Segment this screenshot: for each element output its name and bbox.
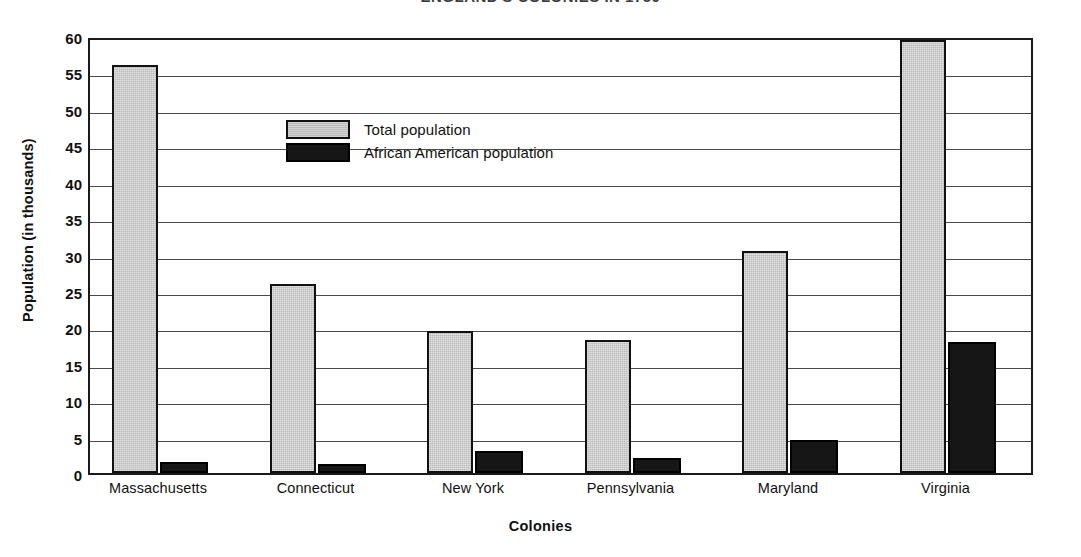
y-axis-tick-5: 5 <box>36 431 82 446</box>
y-axis-tick-15: 15 <box>36 358 82 373</box>
x-axis-tick-virginia: Virginia <box>921 480 970 496</box>
chart-page: ENGLAND'S COLONIES IN 1750 Population (i… <box>0 0 1081 557</box>
bar-group-maryland <box>742 40 838 473</box>
chart-title: ENGLAND'S COLONIES IN 1750 <box>0 0 1081 2</box>
y-axis-tick-30: 30 <box>36 249 82 264</box>
x-axis-tick-labels: MassachusettsConnecticutNew YorkPennsylv… <box>88 480 1033 504</box>
y-axis-tick-50: 50 <box>36 103 82 118</box>
chart-legend: Total population African American popula… <box>286 118 616 164</box>
y-axis-tick-35: 35 <box>36 213 82 228</box>
y-axis-tick-labels: 605550454035302520151050 <box>36 38 82 475</box>
bar-group-virginia <box>900 40 996 473</box>
bar-african-american-population-connecticut <box>318 464 366 473</box>
bar-group-new-york <box>427 40 523 473</box>
legend-swatch-total-population-icon <box>286 120 350 139</box>
bar-african-american-population-massachusetts <box>160 462 208 473</box>
y-axis-tick-40: 40 <box>36 176 82 191</box>
legend-item-african-american-population: African American population <box>286 141 616 164</box>
bar-total-population-virginia <box>900 40 946 473</box>
legend-label-total-population: Total population <box>364 121 471 138</box>
bar-total-population-pennsylvania <box>585 340 631 473</box>
y-axis-tick-20: 20 <box>36 322 82 337</box>
plot-area: Total population African American popula… <box>88 38 1033 475</box>
y-axis-tick-0: 0 <box>36 468 82 483</box>
y-axis-tick-45: 45 <box>36 140 82 155</box>
x-axis-tick-maryland: Maryland <box>758 480 818 496</box>
x-axis-tick-connecticut: Connecticut <box>277 480 355 496</box>
bar-group-massachusetts <box>112 40 208 473</box>
bar-african-american-population-pennsylvania <box>633 458 681 473</box>
legend-item-total-population: Total population <box>286 118 616 141</box>
y-axis-tick-55: 55 <box>36 67 82 82</box>
bar-total-population-connecticut <box>270 284 316 473</box>
x-axis-tick-pennsylvania: Pennsylvania <box>587 480 674 496</box>
bar-group-pennsylvania <box>585 40 681 473</box>
legend-swatch-african-american-population-icon <box>286 143 350 162</box>
legend-label-african-american-population: African American population <box>364 144 553 161</box>
bar-african-american-population-maryland <box>790 440 838 473</box>
bar-total-population-massachusetts <box>112 65 158 473</box>
y-axis-tick-25: 25 <box>36 285 82 300</box>
bars-layer <box>90 40 1031 473</box>
x-axis-tick-new-york: New York <box>442 480 504 496</box>
bar-african-american-population-new-york <box>475 451 523 473</box>
y-axis-tick-10: 10 <box>36 395 82 410</box>
bar-group-connecticut <box>270 40 366 473</box>
x-axis-title: Colonies <box>0 518 1081 534</box>
bar-total-population-maryland <box>742 251 788 473</box>
y-axis-tick-60: 60 <box>36 31 82 46</box>
bar-african-american-population-virginia <box>948 342 996 473</box>
y-axis-title: Population (in thousands) <box>20 80 36 380</box>
bar-total-population-new-york <box>427 331 473 473</box>
x-axis-tick-massachusetts: Massachusetts <box>109 480 207 496</box>
